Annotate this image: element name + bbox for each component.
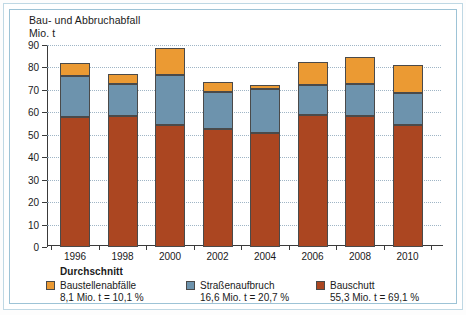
- bar-segment-stra-enaufbruch-1996[interactable]: [60, 76, 90, 116]
- y-tick-mark: [42, 90, 47, 91]
- legend-value: 8,1 Mio. t = 10,1 %: [60, 292, 144, 304]
- bar-segment-bauschutt-2002[interactable]: [203, 129, 233, 247]
- legend-items-row: Baustellenabfälle8,1 Mio. t = 10,1 %Stra…: [60, 280, 450, 304]
- gridline: [47, 180, 441, 181]
- legend-label: Bauschutt: [330, 280, 419, 292]
- bar-segment-baustellenabf-lle-2010[interactable]: [393, 65, 423, 93]
- x-tick-mark: [51, 245, 52, 250]
- x-tick-label-2006: 2006: [301, 251, 323, 262]
- bar-segment-stra-enaufbruch-2000[interactable]: [155, 75, 185, 124]
- bar-segment-stra-enaufbruch-2004[interactable]: [250, 89, 280, 133]
- chart-unit-label: Mio. t: [29, 27, 140, 40]
- bar-segment-stra-enaufbruch-2010[interactable]: [393, 93, 423, 124]
- x-tick-mark: [384, 245, 385, 250]
- y-tick-mark: [42, 157, 47, 158]
- legend-label: Baustellenabfälle: [60, 280, 144, 292]
- bar-2010[interactable]: [393, 45, 423, 247]
- legend-swatch-icon: [46, 281, 55, 290]
- legend-heading: Durchschnitt: [60, 266, 450, 277]
- gridline: [47, 112, 441, 113]
- x-tick-mark: [194, 245, 195, 250]
- y-tick-label: 20: [28, 197, 39, 208]
- x-tick-label-2004: 2004: [254, 251, 276, 262]
- gridline: [47, 45, 441, 46]
- bar-2004[interactable]: [250, 45, 280, 247]
- chart-legend: Durchschnitt Baustellenabfälle8,1 Mio. t…: [60, 266, 450, 304]
- chart-title: Bau- und Abbruchabfall: [29, 14, 140, 27]
- x-tick-mark: [99, 245, 100, 250]
- y-tick-mark: [42, 135, 47, 136]
- legend-label: Straßenaufbruch: [200, 280, 289, 292]
- y-tick-label: 50: [28, 129, 39, 140]
- y-tick-label: 30: [28, 174, 39, 185]
- legend-item-stra-enaufbruch[interactable]: Straßenaufbruch16,6 Mio. t = 20,7 %: [200, 280, 289, 304]
- bar-segment-baustellenabf-lle-2000[interactable]: [155, 48, 185, 75]
- y-tick-mark: [42, 45, 47, 46]
- gridline: [47, 67, 441, 68]
- x-tick-label-2002: 2002: [206, 251, 228, 262]
- x-tick-mark: [336, 245, 337, 250]
- bar-1998[interactable]: [108, 45, 138, 247]
- x-tick-mark: [241, 245, 242, 250]
- gridline: [47, 90, 441, 91]
- bar-segment-bauschutt-2010[interactable]: [393, 125, 423, 247]
- y-tick-label: 70: [28, 84, 39, 95]
- x-tick-label-2000: 2000: [159, 251, 181, 262]
- gridline: [47, 157, 441, 158]
- y-tick-label: 90: [28, 40, 39, 51]
- legend-value: 16,6 Mio. t = 20,7 %: [200, 292, 289, 304]
- x-tick-label-1998: 1998: [111, 251, 133, 262]
- x-tick-mark: [289, 245, 290, 250]
- bar-2000[interactable]: [155, 45, 185, 247]
- chart-figure: Bau- und Abbruchabfall Mio. t 0102030405…: [0, 0, 466, 315]
- bar-segment-stra-enaufbruch-2002[interactable]: [203, 92, 233, 129]
- bar-segment-bauschutt-2000[interactable]: [155, 125, 185, 247]
- y-tick-label: 10: [28, 219, 39, 230]
- y-tick-mark: [42, 112, 47, 113]
- bar-segment-stra-enaufbruch-2008[interactable]: [345, 84, 375, 115]
- bar-segment-bauschutt-2006[interactable]: [298, 115, 328, 247]
- bar-1996[interactable]: [60, 45, 90, 247]
- legend-swatch-icon: [186, 281, 195, 290]
- bar-segment-baustellenabf-lle-2006[interactable]: [298, 62, 328, 86]
- y-tick-mark: [42, 225, 47, 226]
- x-tick-label-2008: 2008: [349, 251, 371, 262]
- gridline: [47, 135, 441, 136]
- bar-segment-baustellenabf-lle-2008[interactable]: [345, 57, 375, 84]
- legend-swatch-icon: [316, 281, 325, 290]
- legend-value: 55,3 Mio. t = 69,1 %: [330, 292, 419, 304]
- bar-segment-bauschutt-2004[interactable]: [250, 133, 280, 247]
- y-tick-mark: [42, 180, 47, 181]
- bar-segment-bauschutt-1996[interactable]: [60, 117, 90, 247]
- legend-item-baustellenabf-lle[interactable]: Baustellenabfälle8,1 Mio. t = 10,1 %: [60, 280, 144, 304]
- bar-segment-baustellenabf-lle-1998[interactable]: [108, 74, 138, 84]
- y-tick-mark: [42, 202, 47, 203]
- bar-segment-stra-enaufbruch-2006[interactable]: [298, 85, 328, 114]
- y-tick-label: 60: [28, 107, 39, 118]
- legend-item-bauschutt[interactable]: Bauschutt55,3 Mio. t = 69,1 %: [330, 280, 419, 304]
- bar-segment-baustellenabf-lle-1996[interactable]: [60, 63, 90, 76]
- y-tick-label: 0: [33, 242, 39, 253]
- gridline: [47, 202, 441, 203]
- y-tick-mark: [42, 247, 47, 248]
- bar-segment-baustellenabf-lle-2002[interactable]: [203, 82, 233, 92]
- bar-segment-bauschutt-2008[interactable]: [345, 116, 375, 247]
- gridline: [47, 225, 441, 226]
- x-tick-label-2010: 2010: [396, 251, 418, 262]
- bar-segment-baustellenabf-lle-2004[interactable]: [250, 85, 280, 88]
- chart-title-block: Bau- und Abbruchabfall Mio. t: [29, 14, 140, 40]
- plot-area: 0102030405060708090: [47, 45, 441, 247]
- bar-2008[interactable]: [345, 45, 375, 247]
- y-tick-mark: [42, 67, 47, 68]
- y-tick-label: 80: [28, 62, 39, 73]
- x-tick-label-1996: 1996: [64, 251, 86, 262]
- x-tick-mark: [431, 245, 432, 250]
- bar-2002[interactable]: [203, 45, 233, 247]
- bar-2006[interactable]: [298, 45, 328, 247]
- bar-segment-bauschutt-1998[interactable]: [108, 116, 138, 247]
- y-tick-label: 40: [28, 152, 39, 163]
- bar-segment-stra-enaufbruch-1998[interactable]: [108, 84, 138, 115]
- x-tick-mark: [146, 245, 147, 250]
